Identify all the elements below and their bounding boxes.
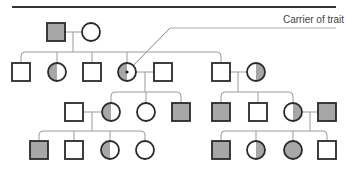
male-unaffected-symbol	[212, 63, 230, 81]
family-connector	[39, 112, 145, 141]
annotation-dot	[125, 70, 128, 73]
carrier-of-trait-label: Carrier of trait	[283, 14, 344, 25]
male-affected-symbol	[212, 141, 230, 159]
male-affected-symbol	[47, 23, 65, 41]
pedigree-chart	[0, 0, 349, 172]
female-unaffected-symbol	[82, 23, 100, 41]
female-carrier-symbol	[284, 103, 302, 121]
individuals	[12, 23, 336, 159]
female-unaffected-symbol	[137, 103, 155, 121]
male-affected-symbol	[212, 103, 230, 121]
family-connector	[221, 112, 327, 141]
male-unaffected-symbol	[65, 103, 83, 121]
male-unaffected-symbol	[65, 141, 83, 159]
male-unaffected-symbol	[249, 103, 267, 121]
male-affected-symbol	[30, 141, 48, 159]
female-carrier-symbol	[48, 63, 66, 81]
female-unaffected-symbol	[136, 141, 154, 159]
female-carrier-symbol	[247, 63, 265, 81]
female-carrier-symbol	[101, 141, 119, 159]
male-affected-symbol	[172, 103, 190, 121]
male-unaffected-symbol	[83, 63, 101, 81]
female-affected-symbol	[284, 141, 302, 159]
female-carrier-symbol	[102, 103, 120, 121]
male-unaffected-symbol	[318, 141, 336, 159]
male-unaffected-symbol	[12, 63, 30, 81]
male-unaffected-symbol	[154, 63, 172, 81]
female-carrier-symbol	[247, 141, 265, 159]
connectors	[21, 32, 327, 141]
male-affected-symbol	[318, 103, 336, 121]
